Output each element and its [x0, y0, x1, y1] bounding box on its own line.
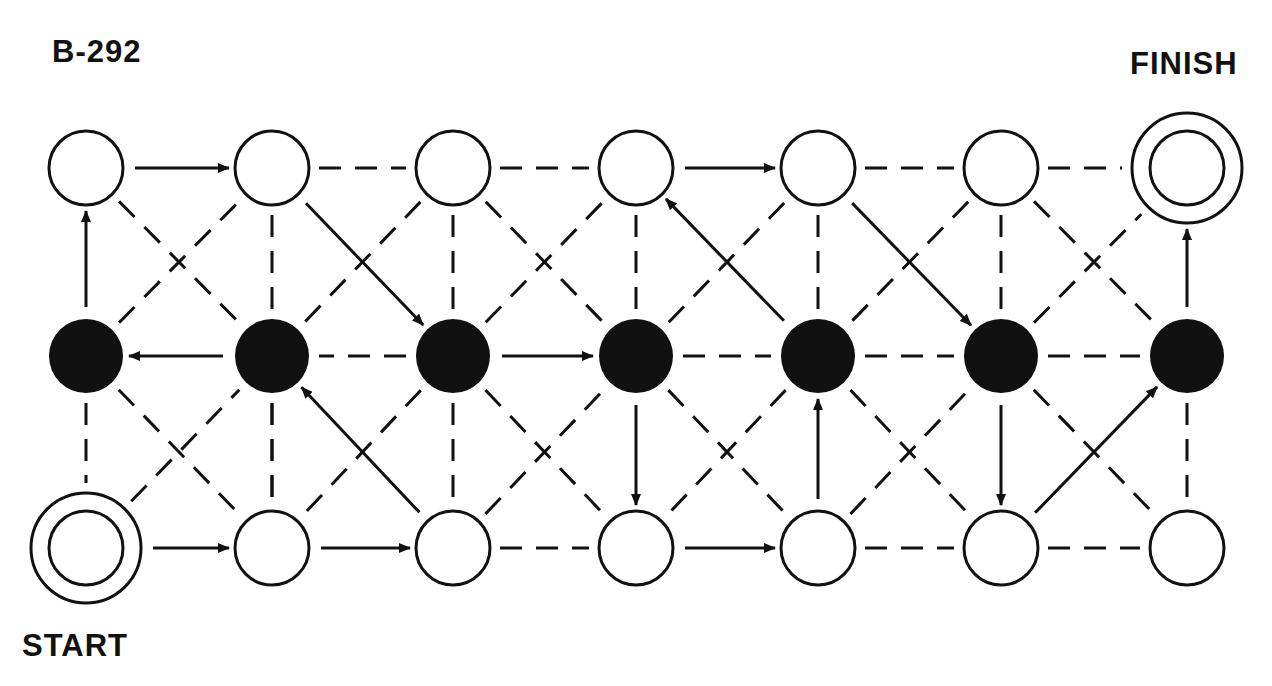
dashed-line: [486, 202, 603, 323]
arrow-T4-to-M5: [852, 203, 971, 325]
node-t3-open: [599, 131, 673, 205]
node-b6-open: [1150, 511, 1224, 585]
maze-graph: [0, 0, 1272, 686]
node-b1-open: [235, 511, 309, 585]
node-m0-filled: [49, 319, 123, 393]
node-t5-open: [964, 131, 1038, 205]
arrow-B5-to-M6: [1035, 387, 1157, 513]
node-t2-open: [416, 131, 490, 205]
node-t0-open: [49, 131, 123, 205]
node-m5-filled: [964, 319, 1038, 393]
node-b2-open: [416, 511, 490, 585]
arrow-T1-to-M2: [306, 203, 423, 325]
node-m2-filled: [416, 319, 490, 393]
node-m1-filled: [235, 319, 309, 393]
nodes: [31, 113, 1242, 603]
node-m3-filled: [599, 319, 673, 393]
node-m4-filled: [781, 319, 855, 393]
arrow-B2-to-M1: [301, 387, 419, 512]
node-b3-open: [599, 511, 673, 585]
dashed-line: [131, 390, 239, 502]
dashed-line: [1034, 214, 1141, 322]
node-b5-open: [964, 511, 1038, 585]
arrow-M4-to-T3: [666, 199, 784, 321]
node-m6-filled: [1150, 319, 1224, 393]
node-b0-start: [31, 493, 141, 603]
node-t4-open: [781, 131, 855, 205]
node-b4-open: [781, 511, 855, 585]
node-t1-open: [235, 131, 309, 205]
node-t6-finish: [1132, 113, 1242, 223]
